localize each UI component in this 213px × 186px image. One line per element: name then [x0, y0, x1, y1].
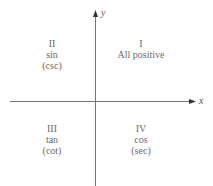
quadrant-3: III tan (cot) [12, 123, 92, 156]
y-axis-arrow-icon [93, 10, 98, 17]
quadrant-3-function: tan [12, 134, 92, 145]
quadrant-4-numeral: IV [101, 123, 181, 134]
quadrant-1-numeral: I [101, 38, 181, 49]
quadrant-sign-diagram: x y I All positive II sin (csc) III tan … [0, 0, 213, 186]
y-axis-label: y [101, 8, 105, 18]
quadrant-1: I All positive [101, 38, 181, 60]
quadrant-1-text: All positive [101, 49, 181, 60]
quadrant-2-function: sin [12, 49, 92, 60]
quadrant-2-reciprocal: (csc) [12, 60, 92, 71]
x-axis-arrow-icon [189, 99, 196, 104]
quadrant-4-function: cos [101, 134, 181, 145]
quadrant-2-numeral: II [12, 38, 92, 49]
quadrant-3-numeral: III [12, 123, 92, 134]
axes-svg [0, 0, 213, 186]
quadrant-3-reciprocal: (cot) [12, 145, 92, 156]
x-axis-label: x [199, 96, 203, 106]
quadrant-4-reciprocal: (sec) [101, 145, 181, 156]
quadrant-4: IV cos (sec) [101, 123, 181, 156]
quadrant-2: II sin (csc) [12, 38, 92, 71]
